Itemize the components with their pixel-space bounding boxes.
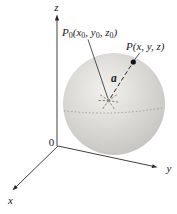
z-axis-label: z (53, 1, 59, 13)
y-axis-label: y (166, 162, 172, 174)
sphere (63, 53, 165, 155)
y-axis-arrowhead-icon (152, 164, 158, 168)
surface-point-dot (131, 59, 136, 64)
figure-canvas: z y x 0 P0(x0, y0, z0) P(x, y, z) a (0, 0, 177, 214)
surface-point-label: P(x, y, z) (125, 40, 165, 53)
radius-label: a (111, 72, 117, 84)
z-axis-arrowhead-icon (55, 15, 59, 21)
figure-sphere-diagram: z y x 0 P0(x0, y0, z0) P(x, y, z) a (0, 0, 177, 214)
center-point-blob (107, 99, 111, 103)
origin-label: 0 (49, 136, 55, 148)
x-axis-label: x (7, 194, 13, 206)
x-axis-line (16, 146, 58, 187)
center-point-label: P0(x0, y0, z0) (61, 26, 117, 40)
